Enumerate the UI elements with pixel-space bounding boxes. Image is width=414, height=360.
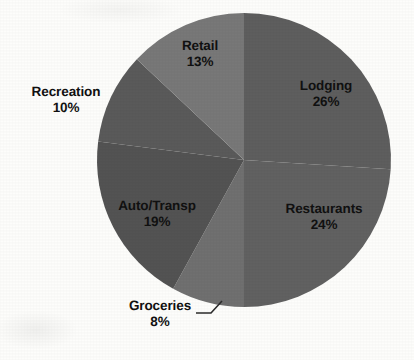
slice-label-lodging-value: 26% xyxy=(274,94,378,110)
slice-label-retail-name: Retail xyxy=(157,38,243,54)
slice-label-recreation-name: Recreation xyxy=(8,84,124,100)
slice-label-groceries-name: Groceries xyxy=(100,298,220,314)
slice-label-restaurants: Restaurants 24% xyxy=(262,201,386,234)
slice-label-lodging-name: Lodging xyxy=(274,78,378,94)
slice-label-retail-value: 13% xyxy=(157,54,243,70)
slice-label-recreation: Recreation 10% xyxy=(8,84,124,117)
slice-label-recreation-value: 10% xyxy=(8,100,124,116)
slice-label-auto-transp-value: 19% xyxy=(92,214,222,230)
slice-label-lodging: Lodging 26% xyxy=(274,78,378,111)
pie-chart: Lodging 26% Restaurants 24% Groceries 8%… xyxy=(0,0,414,360)
slice-label-restaurants-name: Restaurants xyxy=(262,201,386,217)
slice-label-retail: Retail 13% xyxy=(157,38,243,71)
pie-slices xyxy=(97,13,391,307)
slice-label-restaurants-value: 24% xyxy=(262,217,386,233)
slice-label-auto-transp-name: Auto/Transp xyxy=(92,198,222,214)
slice-label-auto-transp: Auto/Transp 19% xyxy=(92,198,222,231)
slice-label-groceries-value: 8% xyxy=(100,314,220,330)
slice-label-groceries: Groceries 8% xyxy=(100,298,220,331)
